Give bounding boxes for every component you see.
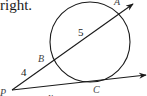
label-PB-length: 4 [21, 66, 27, 78]
caption-text: right. [0, 0, 32, 14]
secant-line-PA [12, 4, 133, 90]
secant-tangent-diagram: A B P C 4 5 x [0, 0, 147, 96]
label-BA-length: 5 [78, 26, 84, 38]
label-A: A [113, 0, 121, 7]
diagram-canvas: right. A B P C 4 5 x [0, 0, 147, 96]
label-C: C [93, 84, 100, 95]
label-B: B [38, 53, 44, 64]
tangent-line-PC [12, 75, 146, 90]
label-PC-length: x [47, 90, 53, 96]
label-P: P [0, 87, 6, 96]
